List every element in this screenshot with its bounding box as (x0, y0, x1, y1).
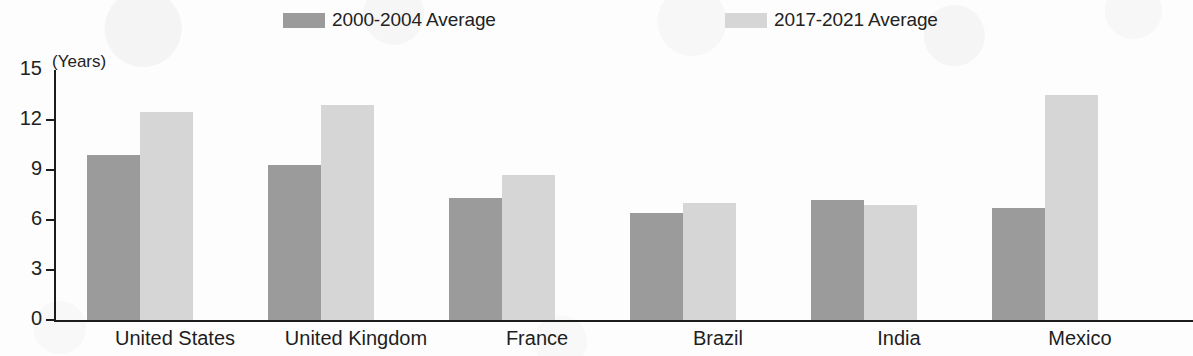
x-axis-label-france: France (432, 327, 642, 350)
bar-mexico-series-2 (1045, 95, 1098, 320)
y-axis-tick-label-9: 9 (2, 157, 42, 180)
y-axis-tick-label-6: 6 (2, 207, 42, 230)
bar-united-states-series-2 (140, 112, 193, 320)
bar-india-series-2 (864, 205, 917, 320)
x-axis-line (54, 320, 1193, 322)
y-axis-tick-0 (46, 319, 56, 321)
bar-united-states-series-1 (87, 155, 140, 320)
y-axis-tick-label-15: 15 (2, 57, 42, 80)
bar-united-kingdom-series-2 (321, 105, 374, 320)
y-axis-tick-12 (46, 119, 56, 121)
x-axis-label-brazil: Brazil (613, 327, 823, 350)
bar-india-series-1 (811, 200, 864, 320)
bar-brazil-series-1 (630, 213, 683, 320)
x-axis-label-united-kingdom: United Kingdom (251, 327, 461, 350)
bar-mexico-series-1 (992, 208, 1045, 320)
y-axis-tick-label-12: 12 (2, 107, 42, 130)
bar-united-kingdom-series-1 (268, 165, 321, 320)
y-axis-tick-label-3: 3 (2, 257, 42, 280)
bar-brazil-series-2 (683, 203, 736, 320)
x-axis-label-mexico: Mexico (975, 327, 1185, 350)
bar-france-series-2 (502, 175, 555, 320)
y-axis-tick-label-0: 0 (2, 307, 42, 330)
y-axis-tick-9 (46, 169, 56, 171)
y-axis-tick-3 (46, 269, 56, 271)
y-axis-line (54, 70, 56, 321)
bar-france-series-1 (449, 198, 502, 320)
y-axis-unit-label: (Years) (52, 52, 106, 72)
chart-figure: 2000-2004 Average 2017-2021 Average (Yea… (0, 0, 1193, 356)
x-axis-label-india: India (794, 327, 1004, 350)
y-axis-tick-6 (46, 219, 56, 221)
plot-area: (Years) 03691215 United StatesUnited Kin… (0, 0, 1193, 356)
x-axis-label-united-states: United States (70, 327, 280, 350)
